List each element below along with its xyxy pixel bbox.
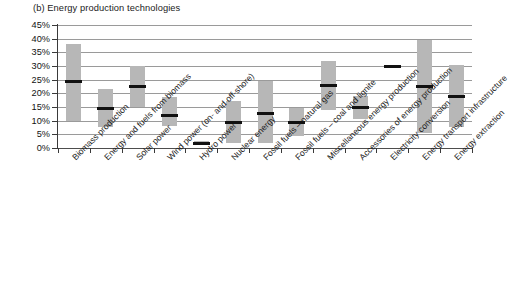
bar-median-marker	[97, 107, 114, 110]
y-tick-35	[52, 52, 57, 53]
y-axis-tick-label: 25%	[4, 74, 50, 84]
bar-group[interactable]	[66, 25, 81, 148]
bar-median-marker	[448, 95, 465, 98]
y-axis-labels: 0%5%10%15%20%25%30%35%40%45%	[0, 0, 50, 286]
y-axis-tick-label: 30%	[4, 61, 50, 71]
bar-median-marker	[65, 80, 82, 83]
bar-median-marker	[384, 65, 401, 68]
y-tick-10	[52, 121, 57, 122]
y-tick-30	[52, 66, 57, 67]
y-tick-15	[52, 107, 57, 108]
y-axis-tick-label: 10%	[4, 115, 50, 125]
y-tick-40	[52, 39, 57, 40]
y-tick-25	[52, 80, 57, 81]
y-axis-tick-label: 45%	[4, 20, 50, 30]
bar-median-marker	[129, 85, 146, 88]
x-tick	[313, 148, 314, 153]
x-tick	[249, 148, 250, 153]
x-tick	[345, 148, 346, 153]
x-tick	[440, 148, 441, 153]
x-tick	[58, 148, 59, 153]
y-tick-5	[52, 134, 57, 135]
y-axis-tick-label: 35%	[4, 47, 50, 57]
x-tick	[408, 148, 409, 153]
chart-title: (b) Energy production technologies	[33, 3, 180, 13]
y-axis-tick-label: 5%	[4, 129, 50, 139]
y-axis-tick-label: 20%	[4, 88, 50, 98]
bar-median-marker	[320, 84, 337, 87]
x-tick	[217, 148, 218, 153]
y-tick-20	[52, 93, 57, 94]
x-tick	[122, 148, 123, 153]
x-tick	[90, 148, 91, 153]
y-tick-45	[52, 25, 57, 26]
y-axis-tick-label: 0%	[4, 143, 50, 153]
y-axis-tick-label: 15%	[4, 102, 50, 112]
x-tick	[154, 148, 155, 153]
y-axis-tick-label: 40%	[4, 33, 50, 43]
bar-median-marker	[161, 114, 178, 117]
x-tick	[281, 148, 282, 153]
x-tick	[185, 148, 186, 153]
y-tick-0	[52, 148, 57, 149]
x-tick	[472, 148, 473, 153]
x-tick	[376, 148, 377, 153]
